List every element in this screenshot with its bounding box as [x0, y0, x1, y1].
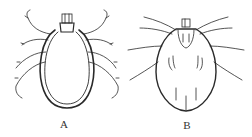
panel-label-a: A — [58, 118, 70, 130]
panel-b: B — [126, 0, 252, 137]
tick-b-illustration — [126, 0, 252, 137]
panel-a: A — [0, 0, 126, 137]
tick-a-illustration — [0, 0, 126, 137]
panel-label-b: B — [181, 119, 193, 131]
